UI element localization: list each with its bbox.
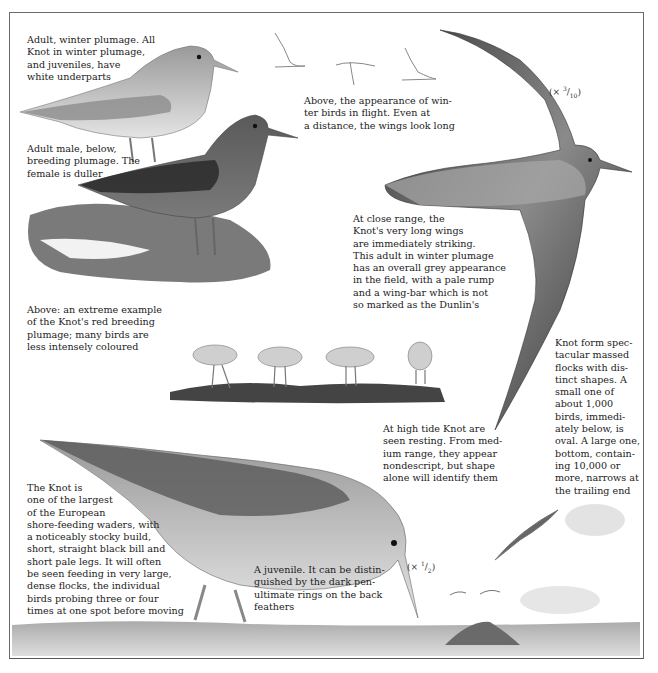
scale-prefix: (× (549, 87, 563, 97)
caption-line: short pale legs. It will often (27, 556, 184, 568)
distant-flying-birds (450, 510, 558, 595)
caption-line: are immediately striking. (353, 238, 506, 250)
caption-line: more, narrows at (555, 472, 640, 484)
caption-line: be seen feeding in very large, (27, 568, 184, 580)
resting-flock-high-tide (170, 342, 445, 403)
caption-line: one of the largest (27, 494, 184, 506)
caption-line: Adult male, below, (27, 143, 140, 155)
scale-numerator: 3 (563, 85, 567, 92)
caption-line: the trailing end (555, 485, 640, 497)
caption-line: nondescript, but shape (383, 460, 502, 472)
caption-line: of the European (27, 507, 184, 519)
scale-suffix: ) (577, 87, 581, 97)
caption-line: white underparts (27, 71, 155, 83)
caption-line: guished by the dark pen- (254, 576, 385, 588)
caption-line: birds probing three or four (27, 593, 184, 605)
caption-line: ing 10,000 or (555, 460, 640, 472)
caption-line: ium range, they appear (383, 448, 502, 460)
winter-flight-silhouettes (275, 33, 436, 85)
caption-line: feathers (254, 601, 385, 613)
breeding-male-knot (28, 115, 298, 283)
caption-juvenile: A juvenile. It can be distin- guished by… (254, 564, 385, 613)
caption-flight-winter: Above, the appearance of win- ter birds … (304, 95, 455, 132)
caption-line: alone will identify them (383, 472, 502, 484)
caption-line: a distance, the wings look long (304, 120, 455, 132)
caption-line: ately below, is (555, 423, 640, 435)
caption-red-breeding: Above: an extreme example of the Knot's … (27, 304, 162, 353)
caption-line: small one of (555, 386, 640, 398)
caption-line: birds, immedi- (555, 411, 640, 423)
flock-shapes-large (520, 586, 600, 614)
caption-line: Knot in winter plumage, (27, 46, 155, 58)
caption-line: Above: an extreme example (27, 304, 162, 316)
caption-line: tinct shapes. A (555, 374, 640, 386)
caption-line: and a wing-bar which is not (353, 287, 506, 299)
caption-line: a noticeably stocky build, (27, 531, 184, 543)
caption-line: less intensely coloured (27, 341, 162, 353)
caption-line: breeding plumage. The (27, 155, 140, 167)
caption-line: so marked as the Dunlin's (353, 299, 506, 311)
caption-line: ultimate rings on the back (254, 589, 385, 601)
caption-line: oval. A large one, (555, 435, 640, 447)
shoreline-mudflat (12, 621, 640, 656)
caption-flocks: Knot form spec- tacular massed flocks wi… (555, 337, 640, 497)
caption-line: of the Knot's red breeding (27, 316, 162, 328)
caption-line: flocks with dis- (555, 362, 640, 374)
caption-line: A juvenile. It can be distin- (254, 564, 385, 576)
scale-numerator: 1 (421, 560, 425, 567)
caption-high-tide: At high tide Knot are seen resting. From… (383, 423, 502, 484)
scale-flight-bird: (× 3/10) (549, 85, 581, 99)
caption-line: At high tide Knot are (383, 423, 502, 435)
caption-line: about 1,000 (555, 398, 640, 410)
caption-line: tacular massed (555, 349, 640, 361)
caption-line: Above, the appearance of win- (304, 95, 455, 107)
caption-line: short, straight black bill and (27, 543, 184, 555)
caption-main-description: The Knot is one of the largest of the Eu… (27, 482, 184, 617)
flock-shapes-small-oval (565, 504, 625, 536)
caption-line: female is duller (27, 168, 140, 180)
caption-line: shore-feeding waders, with (27, 519, 184, 531)
caption-line: seen resting. From med- (383, 435, 502, 447)
caption-line: At close range, the (353, 213, 506, 225)
scale-juvenile: (× 1/2) (407, 560, 435, 574)
caption-line: Adult, winter plumage. All (27, 34, 155, 46)
caption-line: Knot form spec- (555, 337, 640, 349)
caption-line: and juveniles, have (27, 59, 155, 71)
caption-line: in the field, with a pale rump (353, 274, 506, 286)
scale-prefix: (× (407, 562, 421, 572)
caption-line: has an overall grey appearance (353, 262, 506, 274)
caption-line: ter birds in flight. Even at (304, 107, 455, 119)
caption-breeding-male: Adult male, below, breeding plumage. The… (27, 143, 140, 180)
caption-line: The Knot is (27, 482, 184, 494)
caption-winter-adult: Adult, winter plumage. All Knot in winte… (27, 34, 155, 83)
caption-close-range: At close range, the Knot's very long win… (353, 213, 506, 311)
caption-line: bottom, contain- (555, 448, 640, 460)
caption-line: plumage; many birds are (27, 329, 162, 341)
caption-line: Knot's very long wings (353, 225, 506, 237)
scale-suffix: ) (432, 562, 436, 572)
caption-line: This adult in winter plumage (353, 250, 506, 262)
caption-line: times at one spot before moving (27, 605, 184, 617)
caption-line: dense flocks, the individual (27, 580, 184, 592)
